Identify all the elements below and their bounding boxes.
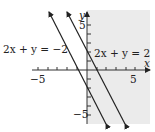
- y-tick-label-5: 5: [79, 20, 86, 31]
- y-tick-label-neg5: −5: [73, 109, 88, 120]
- x-tick-label-neg5: −5: [30, 74, 45, 85]
- x-tick-label-5: 5: [130, 74, 137, 85]
- shaded-region: [87, 10, 150, 124]
- equation-label-left: 2x + y = −2: [3, 44, 68, 55]
- equation-label-right: 2x + y = 2: [94, 48, 150, 59]
- x-axis-label: x: [144, 58, 150, 69]
